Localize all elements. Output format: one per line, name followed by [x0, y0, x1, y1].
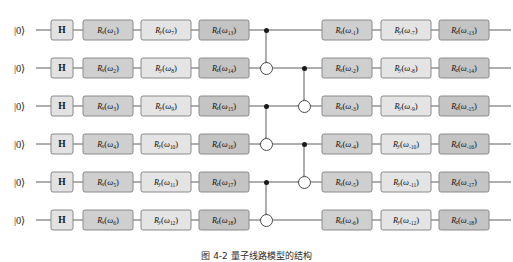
rz-gate-wire-3[interactable]: Rz(ω-15): [439, 96, 490, 117]
gate-label: Rz(ω16): [212, 139, 236, 148]
ry-gate-wire-3[interactable]: Ry(ω9): [141, 96, 192, 117]
gate-axis-subscript: x: [102, 220, 104, 226]
cnot-target-icon-wire-6[interactable]: [260, 214, 273, 227]
gate-axis-subscript: x: [340, 182, 342, 188]
rz-gate-wire-4[interactable]: Rz(ω-16): [439, 134, 490, 155]
rx-gate-wire-2[interactable]: Rx(ω-2): [322, 58, 373, 79]
gate-axis-subscript: y: [398, 182, 400, 188]
gate-axis-subscript: z: [456, 182, 458, 188]
ry-gate-wire-6[interactable]: Ry(ω-12): [381, 210, 432, 231]
cnot-control-dot-wire-4[interactable]: [302, 142, 307, 147]
cnot-target-icon-wire-2[interactable]: [260, 62, 273, 75]
ry-gate-wire-2[interactable]: Ry(ω8): [141, 58, 192, 79]
ry-gate-wire-6[interactable]: Ry(ω12): [141, 210, 192, 231]
cnot-target-icon-wire-3[interactable]: [298, 100, 311, 113]
gate-parameter-symbol: ω: [107, 26, 113, 34]
gate-axis-subscript: x: [102, 30, 104, 36]
rz-gate-wire-2[interactable]: Rz(ω14): [199, 58, 250, 79]
gate-parameter-symbol: ω: [461, 26, 467, 34]
gate-axis-subscript: x: [102, 144, 104, 150]
rx-gate-wire-3[interactable]: Rx(ω-3): [322, 96, 373, 117]
gate-axis-subscript: z: [217, 30, 219, 36]
gate-parameter-symbol: ω: [165, 102, 171, 110]
rx-gate-wire-2[interactable]: Rx(ω2): [83, 58, 134, 79]
gate-parameter-index: 15: [228, 106, 233, 112]
rx-gate-wire-3[interactable]: Rx(ω3): [83, 96, 134, 117]
gate-parameter-index: -18: [467, 220, 474, 226]
gate-parameter-symbol: ω: [403, 216, 409, 224]
paren-close: ): [356, 139, 359, 148]
gate-label: Ry(ω11): [154, 177, 178, 186]
cnot-control-dot-wire-1[interactable]: [264, 28, 269, 33]
gate-parameter-index: -2: [351, 68, 355, 74]
ry-gate-wire-4[interactable]: Ry(ω-10): [381, 134, 432, 155]
cnot-target-icon-wire-4[interactable]: [260, 138, 273, 151]
ry-gate-wire-5[interactable]: Ry(ω-11): [381, 172, 432, 193]
hadamard-gate-wire-3[interactable]: H: [51, 96, 74, 117]
rx-gate-wire-6[interactable]: Rx(ω6): [83, 210, 134, 231]
gate-axis-subscript: x: [340, 68, 342, 74]
ry-gate-wire-2[interactable]: Ry(ω-8): [381, 58, 432, 79]
ry-gate-wire-3[interactable]: Ry(ω-9): [381, 96, 432, 117]
gate-parameter-index: 12: [170, 220, 175, 226]
rz-gate-wire-5[interactable]: Rz(ω-17): [439, 172, 490, 193]
rx-gate-wire-4[interactable]: Rx(ω-4): [322, 134, 373, 155]
gate-label: Rx(ω-1): [335, 25, 358, 34]
hadamard-gate-wire-4[interactable]: H: [51, 134, 74, 155]
cnot-target-icon-wire-5[interactable]: [298, 176, 311, 189]
rz-gate-wire-1[interactable]: Rz(ω-13): [439, 20, 490, 41]
rx-gate-wire-1[interactable]: Rx(ω-1): [322, 20, 373, 41]
ry-gate-wire-1[interactable]: Ry(ω7): [141, 20, 192, 41]
gate-parameter-index: 1: [113, 30, 116, 36]
cnot-control-dot-wire-5[interactable]: [264, 180, 269, 185]
rx-gate-wire-5[interactable]: Rx(ω5): [83, 172, 134, 193]
qubit-init-state-5: |0⟩: [14, 176, 25, 188]
gate-label: Rx(ω-5): [335, 177, 358, 186]
gate-parameter-index: -9: [410, 106, 414, 112]
gate-parameter-index: -11: [409, 182, 416, 188]
gate-label: Rx(ω-6): [335, 215, 358, 224]
gate-axis-subscript: x: [340, 30, 342, 36]
cnot-control-dot-wire-3[interactable]: [264, 104, 269, 109]
paren-close: ): [174, 63, 177, 72]
rz-gate-wire-2[interactable]: Rz(ω-14): [439, 58, 490, 79]
hadamard-gate-wire-6[interactable]: H: [51, 210, 74, 231]
gate-parameter-index: -15: [467, 106, 474, 112]
gate-label: Ry(ω-12): [393, 215, 419, 224]
hadamard-gate-wire-1[interactable]: H: [51, 20, 74, 41]
gate-axis-subscript: z: [217, 106, 219, 112]
paren-close: ): [233, 63, 236, 72]
gate-parameter-symbol: ω: [164, 140, 170, 148]
gate-parameter-index: 10: [170, 144, 175, 150]
gate-parameter-symbol: ω: [404, 26, 410, 34]
gate-parameter-index: -3: [351, 106, 355, 112]
rz-gate-wire-4[interactable]: Rz(ω16): [199, 134, 250, 155]
rx-gate-wire-5[interactable]: Rx(ω-5): [322, 172, 373, 193]
ry-gate-wire-4[interactable]: Ry(ω10): [141, 134, 192, 155]
gate-axis-subscript: x: [102, 68, 104, 74]
hadamard-gate-wire-5[interactable]: H: [51, 172, 74, 193]
gate-parameter-symbol: ω: [107, 140, 113, 148]
rx-gate-wire-4[interactable]: Rx(ω4): [83, 134, 134, 155]
cnot-control-dot-wire-2[interactable]: [302, 66, 307, 71]
rz-gate-wire-6[interactable]: Rz(ω-18): [439, 210, 490, 231]
gate-axis-subscript: z: [217, 68, 219, 74]
rz-gate-wire-5[interactable]: Rz(ω17): [199, 172, 250, 193]
gate-label: Rz(ω14): [212, 63, 236, 72]
paren-close: ): [416, 215, 419, 224]
gate-axis-subscript: y: [399, 68, 401, 74]
paren-close: ): [174, 25, 177, 34]
rx-gate-wire-1[interactable]: Rx(ω1): [83, 20, 134, 41]
gate-parameter-symbol: ω: [165, 64, 171, 72]
hadamard-gate-wire-2[interactable]: H: [51, 58, 74, 79]
rz-gate-wire-6[interactable]: Rz(ω18): [199, 210, 250, 231]
rz-gate-wire-3[interactable]: Rz(ω15): [199, 96, 250, 117]
gate-parameter-symbol: ω: [404, 102, 410, 110]
gate-parameter-index: -6: [351, 220, 355, 226]
rx-gate-wire-6[interactable]: Rx(ω-6): [322, 210, 373, 231]
ry-gate-wire-1[interactable]: Ry(ω-7): [381, 20, 432, 41]
ry-gate-wire-5[interactable]: Ry(ω11): [141, 172, 192, 193]
gate-label: Rx(ω-3): [335, 101, 358, 110]
qubit-init-state-4: |0⟩: [14, 138, 25, 150]
rz-gate-wire-1[interactable]: Rz(ω13): [199, 20, 250, 41]
